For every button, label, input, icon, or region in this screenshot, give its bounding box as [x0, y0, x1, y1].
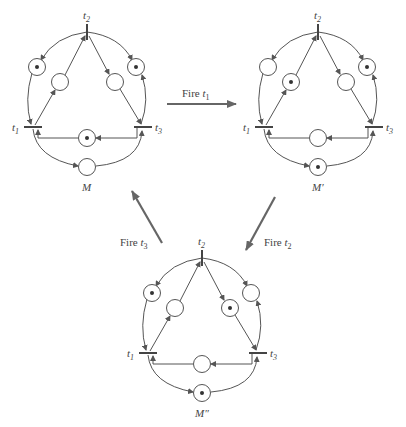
transition-label-t3: t3: [386, 121, 393, 136]
petri-net-m: t2 t1 t3 M: [12, 9, 162, 193]
place-inner-right: [338, 74, 355, 91]
petri-net-m-double-prime: t2 t1 t3 M″: [127, 235, 277, 419]
fire-t2-transition-arrow: Fire t2: [246, 197, 292, 251]
place-bottom: [79, 159, 96, 176]
place-middle: [194, 356, 211, 373]
petri-net-m-prime: t2 t1 t3 M′: [243, 9, 393, 193]
transition-label-t1: t1: [243, 121, 250, 136]
place-outer-left: [260, 59, 277, 76]
transition-label-t2: t2: [314, 9, 321, 24]
place-middle: [310, 130, 327, 147]
marking-label: M: [81, 181, 92, 193]
fire-t3-label: Fire t3: [120, 236, 148, 251]
fire-t3-transition-arrow: Fire t3: [120, 191, 162, 251]
token: [228, 306, 232, 310]
place-inner-left: [167, 300, 184, 317]
token: [85, 136, 89, 140]
token: [289, 80, 293, 84]
transition-label-t3: t3: [270, 347, 277, 362]
token: [365, 65, 369, 69]
transition-label-t1: t1: [12, 121, 19, 136]
fire-t1-transition-arrow: Fire t1: [167, 87, 236, 104]
place-inner-right: [107, 74, 124, 91]
marking-label: M′: [311, 181, 324, 193]
transition-label-t2: t2: [198, 235, 205, 250]
diagram-svg: t2 t1 t3 M t2 t1 t3 M′: [0, 0, 406, 427]
token: [200, 391, 204, 395]
token: [134, 65, 138, 69]
token: [150, 291, 154, 295]
place-outer-right: [243, 285, 260, 302]
transition-label-t1: t1: [127, 347, 134, 362]
transition-label-t3: t3: [155, 121, 162, 136]
fire-t2-label: Fire t2: [264, 236, 292, 251]
token: [35, 65, 39, 69]
transition-label-t2: t2: [83, 9, 90, 24]
petri-net-diagram: t2 t1 t3 M t2 t1 t3 M′: [0, 0, 406, 427]
token: [316, 165, 320, 169]
marking-label: M″: [194, 407, 209, 419]
fire-t1-label: Fire t1: [182, 87, 210, 102]
place-inner-left: [52, 74, 69, 91]
